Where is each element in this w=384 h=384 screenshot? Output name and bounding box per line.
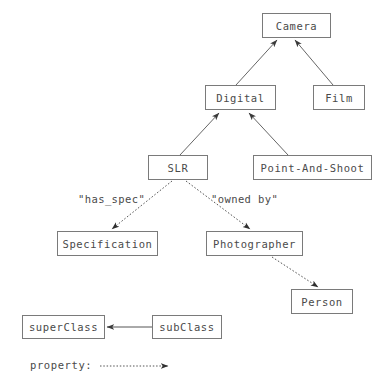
legend-box-superclass[interactable]: superClass bbox=[22, 315, 105, 339]
class-box-photographer[interactable]: Photographer bbox=[206, 231, 303, 256]
edge-film-to-camera bbox=[295, 40, 333, 85]
uml-class-diagram: Camera Digital Film SLR Point-And-Shoot … bbox=[0, 0, 384, 384]
edge-photographer-to-person bbox=[272, 257, 318, 287]
edge-slr-to-digital bbox=[180, 113, 219, 155]
class-box-digital[interactable]: Digital bbox=[205, 85, 276, 110]
class-label-photographer: Photographer bbox=[213, 238, 296, 250]
edge-digital-to-camera bbox=[236, 40, 277, 85]
class-label-specification: Specification bbox=[63, 238, 153, 250]
edge-slr-has-spec bbox=[112, 181, 172, 229]
class-box-slr[interactable]: SLR bbox=[148, 155, 208, 180]
class-box-point-and-shoot[interactable]: Point-And-Shoot bbox=[253, 155, 372, 180]
class-box-specification[interactable]: Specification bbox=[57, 231, 158, 256]
class-label-film: Film bbox=[325, 92, 353, 104]
legend-label-subclass: subClass bbox=[159, 321, 214, 333]
class-label-point-and-shoot: Point-And-Shoot bbox=[261, 162, 365, 174]
edge-label-has-spec: "has_spec" bbox=[78, 193, 145, 205]
class-label-slr: SLR bbox=[168, 162, 189, 174]
class-box-camera[interactable]: Camera bbox=[262, 13, 331, 38]
class-label-digital: Digital bbox=[216, 92, 264, 104]
class-box-person[interactable]: Person bbox=[291, 289, 353, 314]
class-label-person: Person bbox=[301, 296, 343, 308]
class-box-film[interactable]: Film bbox=[313, 85, 365, 110]
legend-label-superclass: superClass bbox=[29, 321, 98, 333]
edge-label-owned-by: "owned by" bbox=[211, 193, 278, 205]
legend-box-subclass[interactable]: subClass bbox=[152, 315, 222, 339]
edge-point-and-shoot-to-digital bbox=[249, 113, 288, 155]
class-label-camera: Camera bbox=[276, 20, 318, 32]
legend-label-property: property: bbox=[30, 359, 92, 371]
edge-slr-owned-by bbox=[186, 181, 250, 229]
